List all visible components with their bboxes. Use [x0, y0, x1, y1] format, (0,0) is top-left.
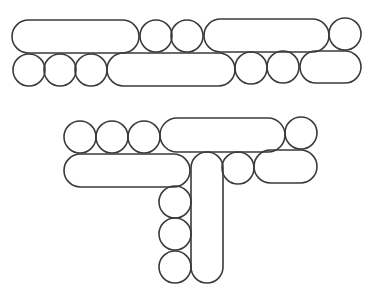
top-double-row-row-1: [12, 18, 361, 53]
capsule-shape: [204, 19, 329, 52]
circle-shape: [285, 117, 317, 149]
group-top-double-row: [12, 18, 361, 86]
packing-diagram: [0, 0, 366, 296]
circle-shape: [13, 54, 45, 86]
capsule-shape: [107, 53, 235, 86]
top-double-row-row-2: [13, 51, 361, 86]
shapes-layer: [12, 18, 361, 283]
circle-shape: [159, 218, 191, 250]
circle-shape: [128, 121, 160, 153]
capsule-shape: [64, 154, 190, 187]
circle-shape: [44, 54, 76, 86]
circle-shape: [140, 20, 172, 52]
capsule-shape: [12, 20, 139, 53]
capsule-shape: [160, 118, 285, 152]
capsule-shape: [254, 150, 317, 183]
circle-shape: [171, 20, 203, 52]
circle-shape: [159, 186, 191, 218]
bottom-t-shape-row-1: [64, 117, 317, 153]
circle-shape: [159, 251, 191, 283]
circle-shape: [64, 121, 96, 153]
circle-shape: [329, 18, 361, 50]
circle-shape: [222, 152, 254, 184]
bottom-t-shape-stem-column: [159, 186, 191, 283]
vertical-capsule-shape: [191, 152, 223, 283]
capsule-shape: [300, 51, 361, 83]
circle-shape: [235, 52, 267, 84]
group-bottom-t-shape: [64, 117, 317, 283]
circle-shape: [96, 121, 128, 153]
circle-shape: [267, 51, 299, 83]
circle-shape: [75, 54, 107, 86]
